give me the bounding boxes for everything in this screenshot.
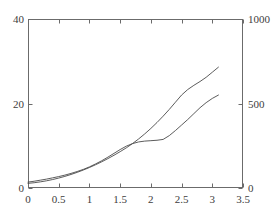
x-axis-tick-label: 1 (87, 194, 93, 205)
y-axis-right-tick-label: 500 (248, 98, 265, 109)
data-series-layer (28, 67, 218, 183)
x-axis-tick-label: 3 (210, 194, 216, 205)
axes-border (29, 20, 243, 188)
x-axis-tick-label: 2.5 (175, 194, 189, 205)
y-axis-left-tick-label: 40 (13, 14, 24, 25)
y-axis-left-tick-label: 0 (19, 183, 25, 194)
axes-ticks (29, 20, 244, 189)
x-axis-tick-label: 1.5 (113, 194, 127, 205)
x-axis-tick-label: 2 (148, 194, 154, 205)
plot-area (0, 0, 276, 222)
series-line-curve-upper (28, 67, 218, 183)
axes-frame (29, 20, 243, 188)
y-axis-right-tick-label: 1000 (248, 14, 270, 25)
x-axis-tick-label: 3.5 (236, 194, 250, 205)
x-axis-tick-label: 0.5 (52, 194, 66, 205)
x-axis-tick-label: 0 (25, 194, 31, 205)
series-line-curve-lower (28, 95, 218, 182)
y-axis-left-tick-label: 20 (13, 98, 24, 109)
y-axis-right-tick-label: 0 (248, 183, 254, 194)
chart-figure: 020400500100000.511.522.533.5 (0, 0, 276, 222)
